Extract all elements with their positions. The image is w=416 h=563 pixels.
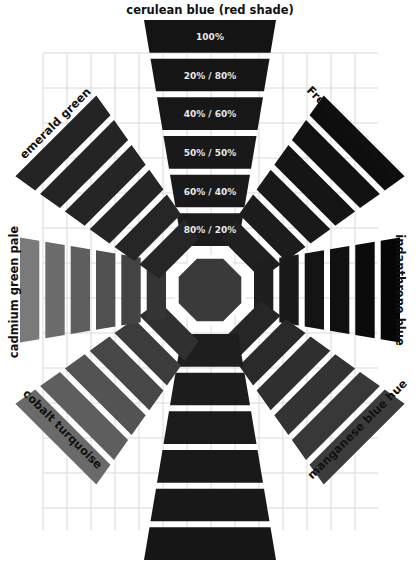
- color-band: [279, 255, 298, 326]
- color-band: [170, 373, 250, 406]
- pigment-label-top: cerulean blue (red shade): [126, 3, 293, 17]
- color-band: [164, 411, 257, 444]
- band-label: 40% / 60%: [184, 109, 237, 119]
- band-label: 50% / 50%: [184, 148, 237, 158]
- band-label: 100%: [196, 32, 224, 42]
- color-band: [330, 246, 349, 334]
- wedge-left: [20, 238, 166, 343]
- color-band: [71, 246, 90, 334]
- color-band: [305, 250, 324, 330]
- color-band: [45, 242, 64, 339]
- band-label: 20% / 80%: [184, 71, 237, 81]
- band-label: 60% / 40%: [184, 187, 237, 197]
- color-band: [144, 527, 276, 560]
- color-band: [157, 450, 263, 483]
- color-band: [151, 489, 270, 522]
- color-band: [96, 250, 115, 330]
- pigment-label-right: indanthrene blue: [393, 234, 407, 346]
- band-label: 80% / 20%: [184, 225, 237, 235]
- center-octagon: [177, 257, 244, 324]
- pigment-label-left: cadmium green pale: [7, 226, 21, 359]
- color-band: [121, 255, 140, 326]
- color-band: [355, 242, 374, 339]
- wedge-right: [254, 238, 400, 343]
- color-band: [20, 238, 39, 343]
- color-mixing-diagram: cerulean blue (red shade)French ultramar…: [0, 0, 416, 563]
